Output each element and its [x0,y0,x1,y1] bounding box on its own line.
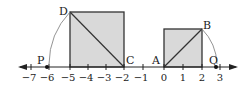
point-p-dot [45,65,49,69]
arc-d-to-p [49,12,70,64]
large-square [70,12,124,67]
label-q: Q [209,54,218,67]
label-c: C [126,54,134,67]
tick-label: 0 [161,72,167,83]
tick-label: −4 [79,72,94,83]
label-p: P [37,54,45,67]
label-b: B [203,19,211,32]
tick-label: −3 [97,72,112,83]
tick-label: −2 [115,72,130,83]
axis-tick-labels: −7 −6 −5 −4 −3 −2 −1 0 1 2 3 [22,72,224,83]
number-line-diagram: −7 −6 −5 −4 −3 −2 −1 0 1 2 3 D C A B P Q [0,0,249,85]
label-d: D [59,5,68,18]
tick-label: 1 [180,72,186,83]
small-square [164,29,202,67]
tick-label: −1 [134,72,149,83]
right-arrow-icon [229,64,238,70]
left-arrow-icon [18,64,27,70]
tick-label: −5 [61,72,76,83]
tick-label: −7 [22,72,37,83]
tick-label: 3 [217,72,223,83]
label-a: A [151,54,161,67]
tick-label: 2 [199,72,205,83]
tick-label: −6 [40,72,55,83]
